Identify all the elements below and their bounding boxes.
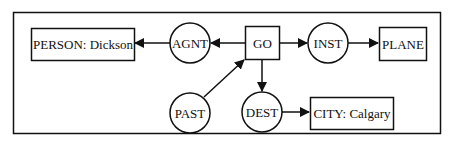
relation-past[interactable]: PAST bbox=[170, 93, 210, 133]
edge-past-go bbox=[204, 60, 244, 97]
concept-person[interactable]: PERSON: Dickson bbox=[32, 29, 135, 61]
concept-plane[interactable]: PLANE bbox=[380, 28, 427, 61]
relation-inst[interactable]: INST bbox=[308, 23, 348, 63]
concept-city[interactable]: CITY: Calgary bbox=[311, 98, 394, 130]
relation-dest-label: DEST bbox=[246, 105, 279, 120]
relation-inst-label: INST bbox=[314, 36, 343, 51]
conceptual-graph: PERSON: Dickson GO PLANE CITY: Calgary A… bbox=[0, 0, 456, 157]
concept-plane-label: PLANE bbox=[382, 37, 424, 52]
concept-person-label: PERSON: Dickson bbox=[33, 37, 134, 52]
concept-city-label: CITY: Calgary bbox=[313, 106, 391, 121]
concept-go-label: GO bbox=[253, 36, 272, 51]
relation-agnt[interactable]: AGNT bbox=[170, 23, 210, 63]
concept-go[interactable]: GO bbox=[246, 27, 280, 60]
relation-agnt-label: AGNT bbox=[172, 36, 208, 51]
relation-dest[interactable]: DEST bbox=[242, 92, 282, 132]
relation-past-label: PAST bbox=[175, 106, 206, 121]
